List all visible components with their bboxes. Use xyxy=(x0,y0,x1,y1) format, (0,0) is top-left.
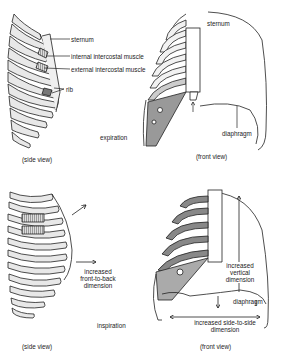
label-side-view-inspiration: (side view) xyxy=(22,343,52,350)
label-rib: rib xyxy=(66,86,73,93)
label-increased-vertical: increased vertical dimension xyxy=(222,262,258,283)
label-sternum-front: sternum xyxy=(207,20,230,27)
label-side-view-expiration: (side view) xyxy=(22,156,52,163)
label-diaphragm-inspiration: diaphragm xyxy=(233,298,263,305)
label-increased-front-to-back: increased front-to-back dimension xyxy=(78,268,118,289)
label-increased-side-to-side: increased side-to-side dimension xyxy=(180,319,270,333)
label-diaphragm-expiration: diaphragm xyxy=(222,130,252,137)
ribcage-side-inspiration xyxy=(8,192,72,318)
ribcage-front-inspiration xyxy=(153,190,268,328)
label-front-view-inspiration: (front view) xyxy=(200,343,231,350)
label-sternum-side: sternum xyxy=(71,36,94,43)
label-front-view-expiration: (front view) xyxy=(196,153,227,160)
label-internal-intercostal: internal intercostal muscle xyxy=(71,53,144,60)
label-expiration: expiration xyxy=(100,134,127,141)
ribcage-side-expiration xyxy=(8,14,60,148)
label-external-intercostal: external intercostal muscle xyxy=(71,66,146,73)
label-inspiration: inspiration xyxy=(97,322,126,329)
